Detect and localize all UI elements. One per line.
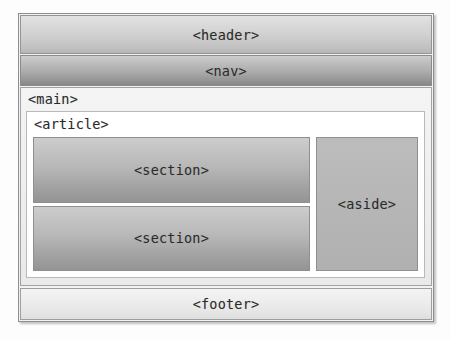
nav-label: <nav> — [205, 63, 247, 79]
aside-label: <aside> — [338, 196, 396, 212]
sections-column: <section> <section> — [33, 137, 310, 271]
section-label-2: <section> — [134, 230, 209, 246]
section-block-2: <section> — [33, 206, 310, 272]
aside-block: <aside> — [316, 137, 418, 271]
section-label-1: <section> — [134, 162, 209, 178]
page-canvas: <header> <nav> <main> <article> <section… — [0, 0, 451, 340]
header-label: <header> — [193, 27, 260, 43]
header-block: <header> — [20, 15, 432, 54]
main-label: <main> — [26, 91, 425, 108]
section-block-1: <section> — [33, 137, 310, 203]
footer-block: <footer> — [20, 288, 432, 320]
article-body: <section> <section> <aside> — [33, 137, 418, 271]
footer-label: <footer> — [193, 296, 260, 312]
article-label: <article> — [33, 115, 418, 133]
html5-layout-diagram: <header> <nav> <main> <article> <section… — [18, 13, 434, 322]
article-block: <article> <section> <section> <aside> — [26, 111, 425, 278]
main-block: <main> <article> <section> <section> <as — [20, 87, 432, 286]
nav-block: <nav> — [20, 55, 432, 86]
